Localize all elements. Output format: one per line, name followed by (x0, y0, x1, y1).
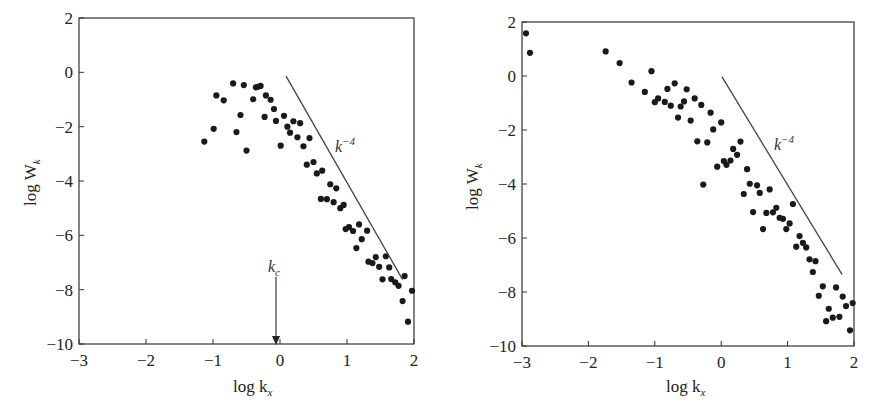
reference-line-label: k−4 (335, 135, 356, 155)
data-point (353, 245, 359, 251)
y-tick-label: 2 (65, 9, 74, 28)
x-tick-label: 2 (850, 353, 859, 372)
data-point (278, 143, 284, 149)
data-point (833, 284, 839, 290)
x-tick-label: −1 (204, 351, 222, 370)
data-point (796, 233, 802, 239)
data-point (304, 162, 310, 168)
data-point (294, 134, 300, 140)
data-point (655, 95, 661, 101)
data-point (211, 126, 217, 132)
x-tick-label: 0 (276, 351, 285, 370)
data-point (261, 114, 267, 120)
data-point (281, 113, 287, 119)
data-point (386, 264, 392, 270)
data-point (243, 147, 249, 153)
data-point (684, 86, 690, 92)
data-point (284, 124, 290, 130)
x-tick-label: −2 (137, 351, 155, 370)
data-point (757, 190, 763, 196)
data-point (741, 191, 747, 197)
data-point (730, 146, 736, 152)
data-point (324, 196, 330, 202)
y-tick-label: −10 (46, 335, 73, 354)
data-point (341, 202, 347, 208)
x-tick-label: −1 (646, 353, 664, 372)
data-point (333, 185, 339, 191)
data-point (409, 288, 415, 294)
x-tick-label: −2 (579, 353, 597, 372)
data-point (263, 92, 269, 98)
data-point (221, 97, 227, 103)
k-minus-4-reference-line (722, 77, 842, 275)
data-point (318, 196, 324, 202)
y-tick-label: −2 (498, 121, 516, 140)
data-point (331, 199, 337, 205)
data-point (810, 269, 816, 275)
x-tick-label: 2 (410, 351, 419, 370)
k-minus-4-reference-line (286, 76, 403, 279)
data-point (369, 260, 375, 266)
data-point (734, 152, 740, 158)
data-point (648, 68, 654, 74)
x-axis-label: log kx (233, 377, 272, 398)
data-point (400, 298, 406, 304)
data-point (376, 264, 382, 270)
data-point (836, 314, 842, 320)
data-point (826, 306, 832, 312)
data-points (523, 30, 856, 333)
data-point (314, 170, 320, 176)
data-point (830, 315, 836, 321)
data-point (290, 118, 296, 124)
y-tick-label: −10 (489, 337, 516, 356)
axis-ticks: −3−2−101220−2−4−6−8−10 (489, 13, 858, 372)
data-point (820, 283, 826, 289)
data-point (306, 135, 312, 141)
reference-line-label: k−4 (774, 133, 795, 153)
data-point (233, 129, 239, 135)
data-point (672, 80, 678, 86)
data-points (201, 80, 415, 324)
data-point (213, 92, 219, 98)
kc-label: kc (268, 258, 280, 278)
data-point (327, 181, 333, 187)
data-point (737, 139, 743, 145)
data-point (793, 244, 799, 250)
y-axis-label: log Wk (463, 162, 484, 210)
data-point (628, 79, 634, 85)
data-point (350, 228, 356, 234)
data-point (763, 210, 769, 216)
x-tick-label: 0 (717, 353, 726, 372)
data-point (692, 95, 698, 101)
y-tick-label: −8 (498, 283, 516, 302)
data-point (754, 182, 760, 188)
y-tick-label: −4 (55, 172, 74, 191)
data-point (395, 283, 401, 289)
data-point (662, 99, 668, 105)
y-tick-label: −2 (55, 118, 73, 137)
data-point (700, 181, 706, 187)
data-point (668, 103, 674, 109)
data-point (201, 139, 207, 145)
data-point (319, 168, 325, 174)
data-point (688, 117, 694, 123)
data-point (718, 119, 724, 125)
data-point (230, 80, 236, 86)
data-point (405, 319, 411, 325)
y-tick-label: −4 (498, 175, 517, 194)
data-point (257, 83, 263, 89)
data-point (300, 143, 306, 149)
y-tick-label: 0 (508, 67, 517, 86)
data-point (783, 226, 789, 232)
data-point (364, 228, 370, 234)
data-point (310, 159, 316, 165)
data-point (816, 293, 822, 299)
data-point (750, 209, 756, 215)
data-point (727, 157, 733, 163)
data-point (847, 327, 853, 333)
data-point (714, 164, 720, 170)
data-point (250, 96, 256, 102)
data-point (617, 60, 623, 66)
data-point (780, 216, 786, 222)
data-point (287, 130, 293, 136)
